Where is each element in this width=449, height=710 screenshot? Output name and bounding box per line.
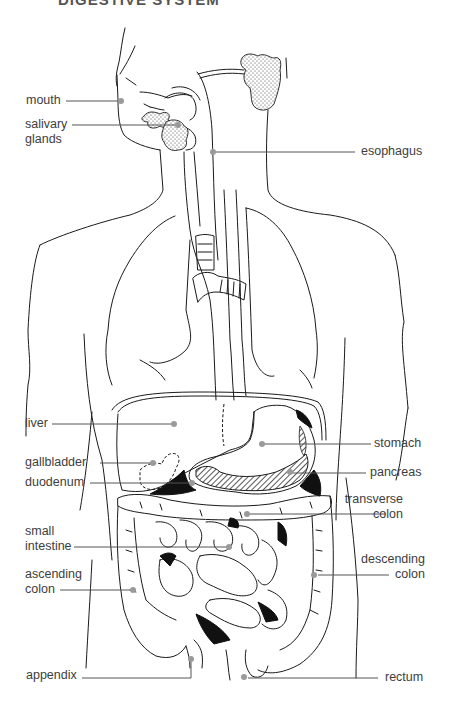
label-liver: liver — [25, 416, 48, 431]
label-pancreas: pancreas — [370, 465, 421, 480]
label-pancreas-text: pancreas — [370, 465, 421, 479]
label-descending-line1: descending — [361, 552, 425, 567]
label-descending-line2: colon — [361, 567, 425, 582]
label-gallbladder: gallbladder — [25, 455, 86, 470]
label-duodenum: duodenum — [25, 475, 84, 490]
ascending-colon — [117, 506, 186, 658]
label-small-line1: small — [25, 524, 72, 539]
label-salivary-glands: salivary glands — [25, 117, 67, 147]
esophagus-tube — [184, 152, 246, 400]
label-small-intestine: small intestine — [25, 524, 72, 554]
label-mouth-text: mouth — [26, 93, 61, 107]
label-stomach-text: stomach — [374, 436, 421, 450]
label-rectum: rectum — [385, 670, 423, 685]
label-small-line2: intestine — [25, 539, 72, 554]
salivary-gland-parotid — [241, 54, 281, 110]
label-ascending-line1: ascending — [25, 567, 82, 582]
label-leaders — [52, 98, 389, 680]
label-mouth: mouth — [26, 93, 61, 108]
label-salivary-line1: salivary — [25, 117, 67, 132]
digestive-system-illustration — [0, 0, 449, 710]
label-appendix-text: appendix — [26, 668, 77, 682]
label-transverse-colon: transverse colon — [345, 492, 403, 522]
label-gallbladder-text: gallbladder — [25, 455, 86, 469]
label-descending-colon: descending colon — [361, 552, 425, 582]
stomach-shadow — [296, 410, 312, 428]
neck-outline — [197, 72, 408, 408]
label-rectum-text: rectum — [385, 670, 423, 684]
label-stomach: stomach — [374, 436, 421, 451]
label-salivary-line2: glands — [25, 132, 67, 147]
label-transverse-line1: transverse — [345, 492, 403, 507]
label-esophagus: esophagus — [361, 144, 422, 159]
label-esophagus-text: esophagus — [361, 144, 422, 158]
transverse-colon — [118, 494, 332, 520]
label-duodenum-text: duodenum — [25, 475, 84, 489]
label-appendix: appendix — [26, 668, 77, 683]
label-liver-text: liver — [25, 416, 48, 430]
rectum — [245, 650, 268, 677]
label-ascending-line2: colon — [25, 582, 82, 597]
label-ascending-colon: ascending colon — [25, 567, 82, 597]
descending-colon — [258, 496, 333, 673]
liver-lobe-divide — [223, 404, 225, 446]
label-transverse-line2: colon — [345, 507, 403, 522]
